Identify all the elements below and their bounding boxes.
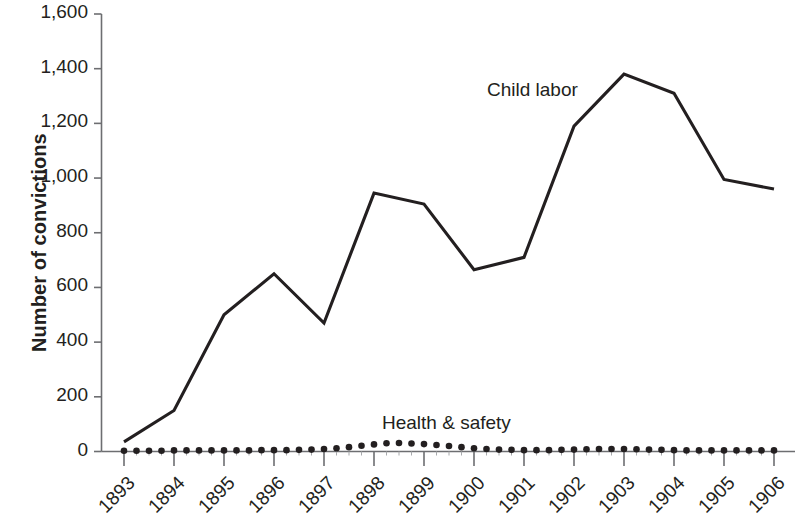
data-point-health-safety [733, 447, 740, 454]
y-axis-tick-label: 0 [77, 439, 88, 461]
data-point-health-safety [296, 447, 303, 454]
data-point-health-safety [383, 440, 390, 447]
y-axis-tick-label: 600 [56, 274, 88, 296]
data-point-health-safety [133, 447, 140, 454]
data-point-health-safety [496, 446, 503, 453]
series-line-child-labor [124, 74, 774, 442]
y-axis-tick-label: 800 [56, 220, 88, 242]
chart-container: Number of convictions 02004006008001,000… [0, 0, 802, 517]
data-point-health-safety [658, 447, 665, 454]
data-point-health-safety [208, 447, 215, 454]
data-point-health-safety [771, 447, 778, 454]
y-axis-tick-label: 400 [56, 329, 88, 351]
data-point-health-safety [196, 447, 203, 454]
series-annotation-health-safety: Health & safety [382, 412, 511, 434]
data-point-health-safety [158, 447, 165, 454]
y-axis-tick-label: 200 [56, 384, 88, 406]
data-point-health-safety [308, 446, 315, 453]
data-point-health-safety [433, 442, 440, 449]
data-point-health-safety [546, 447, 553, 454]
data-point-health-safety [558, 447, 565, 454]
data-point-health-safety [596, 446, 603, 453]
data-point-health-safety [258, 447, 265, 454]
data-point-health-safety [583, 446, 590, 453]
axis-lines [102, 14, 796, 452]
data-point-health-safety [333, 445, 340, 452]
data-point-health-safety [521, 447, 528, 454]
data-point-health-safety [633, 446, 640, 453]
data-point-health-safety [608, 446, 615, 453]
data-point-health-safety [708, 447, 715, 454]
data-point-health-safety [371, 441, 378, 448]
data-point-health-safety [746, 447, 753, 454]
chart-plot-area [0, 0, 802, 517]
data-point-health-safety [171, 447, 178, 454]
data-point-health-safety [421, 441, 428, 448]
data-point-health-safety [696, 447, 703, 454]
data-point-health-safety [246, 447, 253, 454]
data-point-health-safety [508, 447, 515, 454]
data-point-health-safety [446, 443, 453, 450]
data-point-health-safety [283, 447, 290, 454]
data-point-health-safety [346, 444, 353, 451]
y-axis-tick-label: 1,200 [40, 110, 88, 132]
data-point-health-safety [183, 447, 190, 454]
data-point-health-safety [683, 447, 690, 454]
data-point-health-safety [321, 446, 328, 453]
data-point-health-safety [121, 447, 128, 454]
data-point-health-safety [221, 447, 228, 454]
data-point-health-safety [358, 442, 365, 449]
y-axis-tick-label: 1,400 [40, 56, 88, 78]
data-point-health-safety [271, 447, 278, 454]
data-point-health-safety [396, 440, 403, 447]
data-point-health-safety [758, 447, 765, 454]
data-point-health-safety [146, 447, 153, 454]
series-annotation-child-labor: Child labor [487, 79, 578, 101]
data-point-health-safety [471, 445, 478, 452]
data-point-health-safety [621, 446, 628, 453]
y-axis-ticks [94, 14, 102, 452]
data-point-health-safety [721, 447, 728, 454]
data-point-health-safety [571, 446, 578, 453]
data-point-health-safety [233, 447, 240, 454]
y-axis-tick-label: 1,000 [40, 165, 88, 187]
data-point-health-safety [483, 446, 490, 453]
data-point-health-safety [408, 440, 415, 447]
y-axis-tick-label: 1,600 [40, 1, 88, 23]
data-point-health-safety [671, 447, 678, 454]
data-point-health-safety [533, 447, 540, 454]
data-point-health-safety [646, 446, 653, 453]
data-point-health-safety [458, 444, 465, 451]
